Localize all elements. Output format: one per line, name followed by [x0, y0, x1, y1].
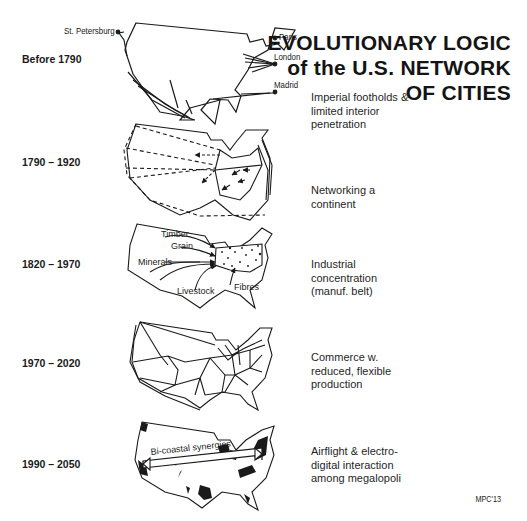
author-credit: MPC'13: [476, 494, 501, 504]
map-before-1790: [116, 23, 295, 124]
map-label-london: London: [274, 52, 300, 62]
map-1820-1970: Timber Grain Minerals Livestock Fibres: [128, 224, 272, 308]
map-label-minerals: Minerals: [138, 257, 173, 267]
map-1990-2050: Bi-coastal synergies: [135, 422, 274, 510]
map-label-fibres: Fibres: [234, 282, 260, 292]
map-label-madrid: Madrid: [274, 80, 298, 90]
maps-layer: Timber Grain Minerals Livestock Fibres: [0, 0, 527, 521]
map-label-paris: Paris: [279, 32, 297, 42]
map-1790-1920: [124, 124, 272, 220]
map-label-st-petersburg: St. Petersburg: [64, 26, 115, 36]
map-label-livestock: Livestock: [177, 286, 215, 296]
map-1970-2020: [130, 322, 272, 410]
map-label-grain: Grain: [171, 241, 193, 251]
map-label-timber: Timber: [161, 229, 189, 239]
